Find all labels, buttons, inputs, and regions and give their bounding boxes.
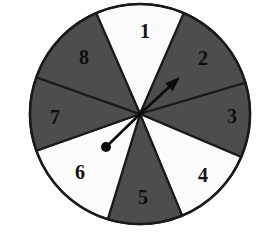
needle-tail-dot (101, 142, 111, 152)
spinner-wheel-graphic[interactable]: 12345678 (0, 0, 271, 249)
sector-label-7: 7 (50, 106, 60, 128)
sector-label-1: 1 (140, 20, 150, 42)
sector-label-6: 6 (75, 161, 85, 183)
sector-label-3: 3 (227, 105, 237, 127)
spinner-figure: 12345678 (0, 0, 271, 249)
sector-label-4: 4 (198, 164, 208, 186)
sector-label-5: 5 (138, 186, 148, 208)
sector-label-2: 2 (198, 47, 208, 69)
sector-label-8: 8 (79, 46, 89, 68)
